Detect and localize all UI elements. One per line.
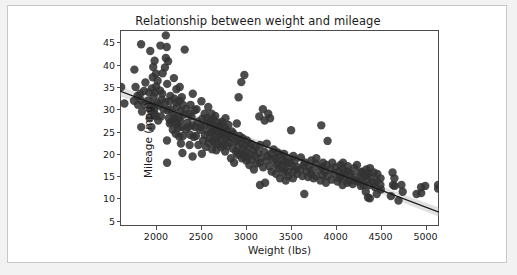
data-point [158,90,166,98]
data-point [130,65,138,73]
data-point [163,43,171,51]
data-point [287,126,295,134]
regression-line [120,91,439,212]
y-tick-mark [117,65,121,66]
data-point [300,190,308,198]
data-point [146,47,154,55]
y-tick-mark [117,154,121,155]
data-point [141,78,149,86]
data-point [390,174,398,182]
x-tick-label: 2000 [144,231,168,242]
data-point [163,80,171,88]
x-axis-label: Weight (lbs) [120,244,439,256]
y-tick-mark [117,198,121,199]
y-tick-mark [117,221,121,222]
y-tick-mark [117,42,121,43]
x-tick-mark [156,226,157,230]
data-point [163,159,171,167]
y-tick-label: 45 [103,37,115,48]
y-tick-label: 15 [103,171,115,182]
data-point [188,152,196,160]
y-tick-label: 25 [103,126,115,137]
y-tick-label: 30 [103,104,115,115]
data-points-group [120,31,439,205]
plot-axes-area: 51015202530354045 2000250030003500400045… [120,30,439,226]
data-point [153,77,161,85]
figure-frame: Relationship between weight and mileage … [7,5,507,263]
data-point [317,121,325,129]
y-tick-label: 35 [103,82,115,93]
x-tick-label: 5000 [413,231,437,242]
data-point [353,161,361,169]
y-tick-mark [117,176,121,177]
data-point [170,74,178,82]
data-point [176,83,184,91]
data-point [137,40,145,48]
y-tick-label: 10 [103,193,115,204]
x-tick-label: 3500 [279,231,303,242]
x-tick-mark [246,226,247,230]
data-point [197,97,205,105]
y-tick-label: 20 [103,148,115,159]
data-point [234,93,242,101]
data-point [417,189,425,197]
y-tick-label: 5 [109,215,115,226]
screenshot-root: Relationship between weight and mileage … [0,0,517,275]
data-point [164,57,172,65]
scatter-plot-svg [120,30,439,226]
data-point [261,179,269,187]
x-tick-label: 4500 [368,231,392,242]
x-tick-label: 2500 [189,231,213,242]
data-point [162,31,170,39]
x-tick-mark [201,226,202,230]
data-point [150,57,158,65]
data-point [376,174,384,182]
data-point [230,159,238,167]
data-point [192,105,200,113]
data-point [181,45,189,53]
data-point [147,123,155,131]
data-point [177,139,185,147]
x-tick-mark [426,226,427,230]
data-point [163,136,171,144]
figure-canvas: Relationship between weight and mileage … [8,6,506,262]
x-tick-label: 3000 [234,231,258,242]
data-point [240,71,248,79]
data-point [185,141,193,149]
regression-line-group [120,91,439,212]
data-point [266,114,274,122]
y-tick-mark [117,132,121,133]
chart-title: Relationship between weight and mileage [8,14,508,28]
y-tick-mark [117,109,121,110]
x-tick-mark [291,226,292,230]
data-point [421,182,429,190]
data-point [120,99,128,107]
data-point [366,194,374,202]
y-tick-mark [117,87,121,88]
data-point [189,90,197,98]
data-point [399,188,407,196]
x-tick-label: 4000 [324,231,348,242]
x-tick-mark [381,226,382,230]
data-point [178,149,186,157]
data-point [137,123,145,131]
data-point [178,93,186,101]
x-tick-mark [336,226,337,230]
y-tick-label: 40 [103,59,115,70]
data-point [323,137,331,145]
data-point [233,119,241,127]
